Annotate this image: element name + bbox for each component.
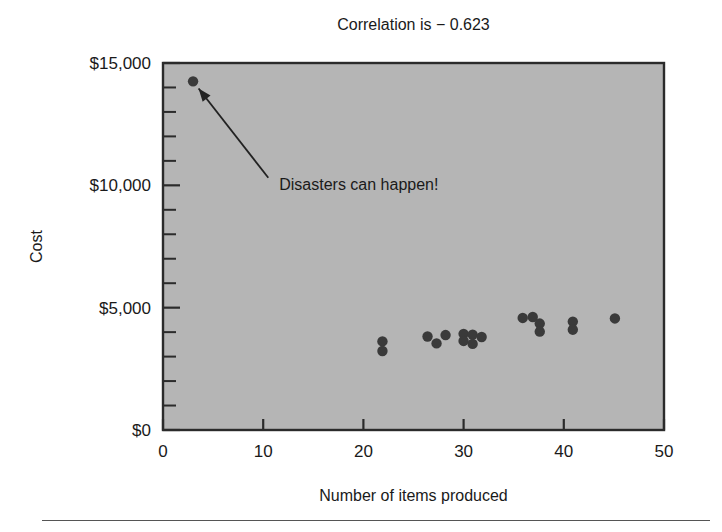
x-axis-tick-label: 10 <box>254 442 273 461</box>
data-point <box>422 331 432 341</box>
y-axis-tick-label: $10,000 <box>90 176 151 195</box>
chart-title: Correlation is − 0.623 <box>337 16 490 33</box>
data-point <box>377 336 387 346</box>
x-axis-tick-label: 50 <box>655 442 674 461</box>
y-axis-tick-label: $0 <box>132 421 151 440</box>
y-axis-tick-label: $5,000 <box>99 299 151 318</box>
scatter-chart: Correlation is − 0.623$0$5,000$10,000$15… <box>0 0 722 532</box>
data-point <box>467 339 477 349</box>
data-point <box>610 313 620 323</box>
data-point <box>440 330 450 340</box>
data-point <box>467 329 477 339</box>
x-axis-tick-label: 0 <box>158 442 167 461</box>
x-axis-tick-label: 40 <box>554 442 573 461</box>
x-axis-title: Number of items produced <box>319 487 508 504</box>
data-point <box>188 76 198 86</box>
data-point <box>535 326 545 336</box>
data-point <box>476 332 486 342</box>
footer-divider <box>42 520 710 521</box>
data-point <box>458 336 468 346</box>
data-point <box>568 324 578 334</box>
figure-container: Correlation is − 0.623$0$5,000$10,000$15… <box>0 0 722 532</box>
y-axis-title: Cost <box>28 230 45 263</box>
plot-area-background <box>163 63 664 430</box>
data-point <box>377 346 387 356</box>
x-axis-tick-label: 30 <box>454 442 473 461</box>
annotation-label: Disasters can happen! <box>279 176 438 193</box>
y-axis-tick-label: $15,000 <box>90 54 151 73</box>
data-point <box>518 313 528 323</box>
data-point <box>431 338 441 348</box>
x-axis-tick-label: 20 <box>354 442 373 461</box>
